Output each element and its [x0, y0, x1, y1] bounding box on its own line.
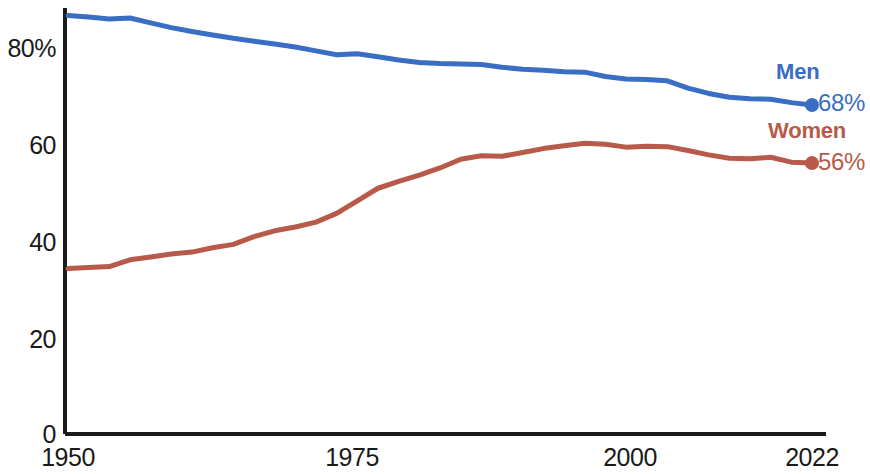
chart-plot-area — [0, 0, 870, 474]
x-tick-1950: 1950 — [18, 443, 118, 472]
data-series-group — [68, 16, 819, 269]
series-label-men: Men — [776, 59, 819, 85]
series-value-men: 68% — [818, 89, 865, 117]
x-tick-2000: 2000 — [580, 443, 680, 472]
axis-lines — [65, 8, 826, 434]
series-line-women — [68, 143, 812, 268]
y-tick-80: 80% — [4, 34, 56, 63]
line-chart: 80% 60 40 20 0 1950 1975 2000 2022 Men 6… — [0, 0, 870, 474]
y-tick-40: 40 — [4, 228, 56, 257]
y-tick-20: 20 — [4, 325, 56, 354]
series-endpoint-women — [805, 156, 819, 170]
series-line-men — [68, 16, 812, 105]
y-tick-60: 60 — [4, 131, 56, 160]
series-endpoint-men — [805, 98, 819, 112]
series-label-women: Women — [768, 118, 846, 144]
series-value-women: 56% — [818, 148, 865, 176]
x-tick-2022: 2022 — [762, 443, 862, 472]
x-tick-1975: 1975 — [302, 443, 402, 472]
